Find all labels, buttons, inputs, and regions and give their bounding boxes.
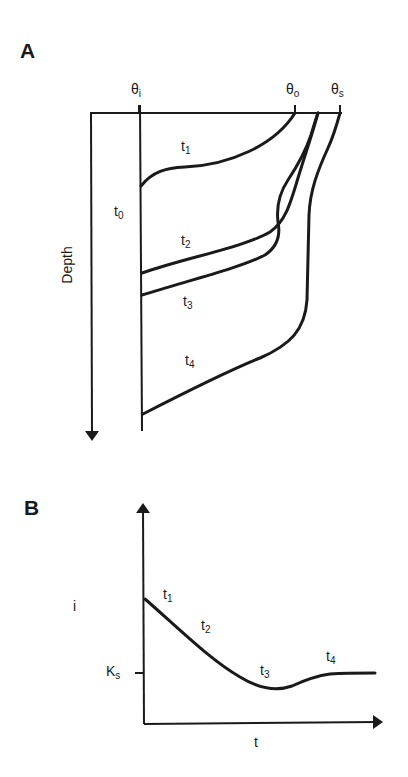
t3-label: t3 [183, 293, 193, 311]
theta-o-label: θo [286, 81, 300, 99]
x-axis-label-t: t [254, 734, 258, 750]
depth-axis [91, 113, 92, 436]
panel-b: B i t Ks t1 t2 t3 t4 [24, 496, 378, 750]
b-t3-label: t3 [260, 662, 270, 680]
svg-text:θs: θs [331, 81, 344, 99]
panel-a-letter: A [20, 39, 35, 62]
infiltration-diagram: A θi θo θs Depth t1 t0 t2 [0, 0, 408, 777]
depth-label: Depth [59, 246, 75, 283]
theta-i-label: θi [131, 81, 141, 99]
t0-label: t0 [114, 203, 124, 221]
svg-text:θo: θo [286, 81, 300, 99]
infiltration-rate-axis [143, 508, 144, 724]
b-t4-label: t4 [326, 648, 336, 666]
panel-b-letter: B [24, 496, 39, 519]
panel-a: A θi θo θs Depth t1 t0 t2 [20, 39, 344, 436]
t1-label: t1 [181, 138, 191, 156]
t0-initial-profile [140, 105, 142, 431]
t1-profile-curve [141, 113, 295, 186]
t2-profile-curve [142, 113, 318, 273]
ks-label: Ks [106, 663, 120, 681]
t3-profile-curve [142, 113, 318, 295]
b-t1-label: t1 [163, 586, 173, 604]
t4-label: t4 [185, 352, 195, 370]
theta-s-label: θs [331, 81, 344, 99]
y-axis-label-i: i [73, 598, 76, 614]
time-axis [144, 722, 378, 724]
svg-text:θi: θi [131, 81, 141, 99]
b-t2-label: t2 [201, 617, 211, 635]
t2-label: t2 [181, 232, 191, 250]
